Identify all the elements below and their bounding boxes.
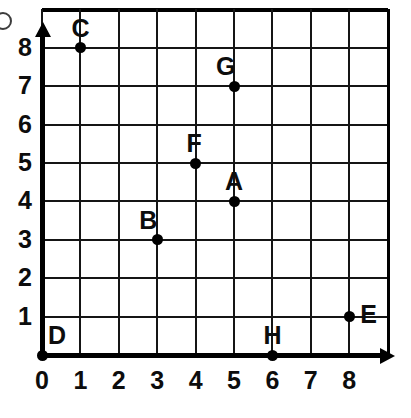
data-point-f xyxy=(190,158,201,169)
point-label-f: F xyxy=(187,131,202,156)
data-point-a xyxy=(229,196,240,207)
point-label-h: H xyxy=(263,323,281,348)
data-point-c xyxy=(75,42,86,53)
point-label-b: B xyxy=(139,208,157,233)
point-label-a: A xyxy=(225,169,243,194)
data-point-e xyxy=(344,311,355,322)
data-point-h xyxy=(267,350,278,361)
point-label-d: D xyxy=(48,323,66,348)
plotted-points: ABCDEFGH xyxy=(0,0,411,418)
point-label-g: G xyxy=(216,54,235,79)
data-point-g xyxy=(229,81,240,92)
point-label-e: E xyxy=(360,302,377,327)
data-point-b xyxy=(152,234,163,245)
point-label-c: C xyxy=(71,16,89,41)
coordinate-grid-figure: 01234567812345678 ABCDEFGH xyxy=(0,0,411,418)
data-point-d xyxy=(37,350,48,361)
